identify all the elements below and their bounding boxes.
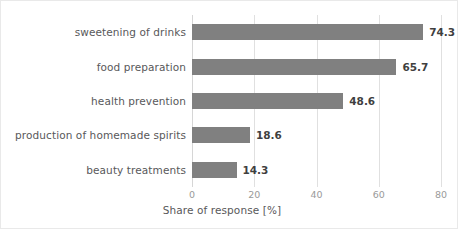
category-label: food preparation [1, 61, 186, 73]
bar-row: health prevention48.6 [1, 84, 458, 118]
bar-row: sweetening of drinks74.3 [1, 15, 458, 49]
category-label: health prevention [1, 95, 186, 107]
category-label: production of homemade spirits [1, 129, 186, 141]
bar [192, 59, 396, 75]
bar [192, 162, 237, 178]
bar-with-value: 65.7 [192, 59, 428, 75]
bar-value-label: 65.7 [402, 61, 428, 73]
bar-with-value: 18.6 [192, 127, 282, 143]
bar [192, 24, 423, 40]
bar-rows: sweetening of drinks74.3food preparation… [1, 15, 458, 187]
x-axis-tick-labels: 020406080 [192, 189, 441, 203]
bar-with-value: 48.6 [192, 93, 375, 109]
bar-value-label: 74.3 [429, 26, 455, 38]
bar-with-value: 14.3 [192, 162, 268, 178]
x-tick-label-80: 80 [435, 189, 447, 200]
x-tick-label-0: 0 [189, 189, 195, 200]
bar-value-label: 14.3 [243, 164, 269, 176]
bar-with-value: 74.3 [192, 24, 455, 40]
bar-row: food preparation65.7 [1, 49, 458, 83]
category-label: beauty treatments [1, 164, 186, 176]
bar-row: production of homemade spirits18.6 [1, 118, 458, 152]
category-label: sweetening of drinks [1, 26, 186, 38]
bar-value-label: 48.6 [349, 95, 375, 107]
x-tick-label-60: 60 [373, 189, 385, 200]
x-tick-label-40: 40 [310, 189, 322, 200]
x-axis-title-text: Share of response [%] [163, 204, 281, 216]
bar [192, 93, 343, 109]
bar [192, 127, 250, 143]
bar-row: beauty treatments14.3 [1, 153, 458, 187]
chart-container: sweetening of drinks74.3food preparation… [0, 0, 458, 229]
x-axis-title: Share of response [%] [1, 204, 458, 216]
bar-value-label: 18.6 [256, 129, 282, 141]
x-tick-label-20: 20 [248, 189, 260, 200]
